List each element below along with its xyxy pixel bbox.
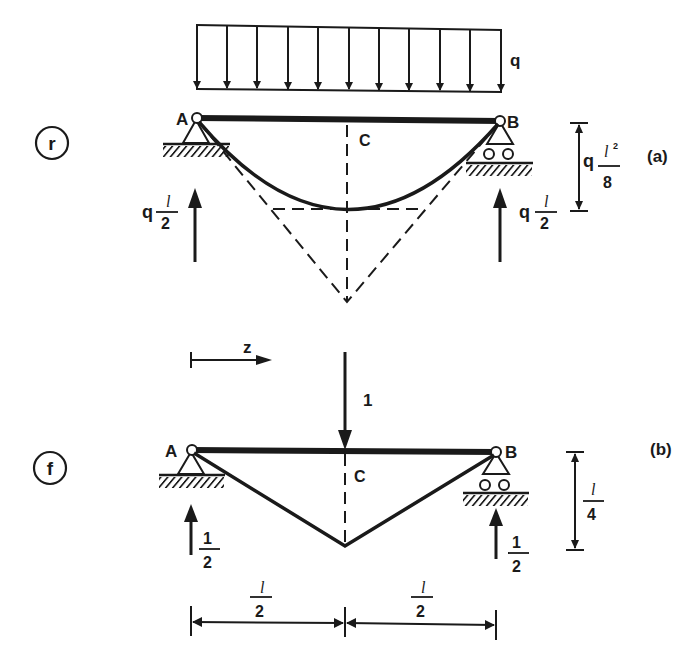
span-dimension — [191, 606, 496, 640]
pin-support-a — [163, 120, 230, 157]
reaction-label-b-b: 1 2 — [508, 534, 529, 575]
svg-text:q: q — [583, 151, 594, 171]
svg-text:1: 1 — [203, 530, 212, 547]
svg-text:2: 2 — [161, 215, 170, 232]
panel-a: r — [36, 25, 668, 302]
reaction-label-a-b: 1 2 — [199, 530, 220, 571]
svg-text:2: 2 — [255, 603, 264, 620]
reaction-arrow-a — [188, 188, 202, 262]
midpoint-c-label-b: C — [354, 468, 366, 485]
reaction-arrow-b — [493, 188, 507, 262]
svg-text:8: 8 — [603, 174, 612, 191]
panel-b-marker: f — [34, 452, 66, 484]
reaction-label-b: q l 2 — [519, 193, 557, 232]
reaction-label-a: q l 2 — [142, 193, 178, 232]
beam-diagram: r — [0, 0, 699, 669]
reaction-arrow-a-b — [184, 504, 198, 555]
svg-text:l: l — [544, 193, 549, 210]
svg-text:2: 2 — [613, 141, 618, 151]
svg-text:f: f — [47, 458, 54, 479]
svg-text:l: l — [421, 579, 426, 596]
distributed-load — [193, 25, 505, 92]
svg-text:2: 2 — [416, 603, 425, 620]
svg-text:2: 2 — [512, 558, 521, 575]
z-label: z — [243, 338, 252, 357]
roller-support-b-b — [463, 453, 529, 506]
panel-a-marker: r — [36, 127, 68, 159]
moment-parabola — [199, 122, 498, 210]
svg-text:q: q — [142, 202, 153, 222]
z-coordinate-arrow — [191, 352, 272, 368]
node-b-label-b: B — [505, 443, 517, 462]
svg-text:2: 2 — [203, 554, 212, 571]
caption-b: (b) — [650, 440, 672, 459]
beam-a — [197, 118, 500, 121]
svg-text:q: q — [519, 202, 530, 222]
point-load-label: 1 — [363, 391, 372, 410]
svg-text:l: l — [604, 143, 609, 160]
svg-text:l: l — [591, 481, 596, 498]
point-load-arrow — [338, 352, 352, 450]
caption-a: (a) — [647, 147, 668, 166]
max-ordinate-label: l 4 — [583, 481, 604, 523]
node-a-label-b: A — [165, 442, 177, 461]
svg-text:4: 4 — [587, 506, 596, 523]
tangent-triangle — [199, 122, 498, 302]
midpoint-c-label: C — [359, 132, 371, 149]
node-a-label: A — [176, 110, 188, 129]
beam-b — [192, 450, 496, 452]
svg-text:r: r — [48, 133, 56, 154]
max-ordinate-dimension — [566, 452, 584, 550]
node-b-label: B — [507, 113, 519, 132]
svg-text:1: 1 — [512, 534, 521, 551]
span-left-label: l 2 — [250, 579, 272, 620]
panel-b: f 1 z A B C — [34, 338, 672, 640]
load-label-q: q — [510, 51, 520, 70]
svg-text:2: 2 — [540, 215, 549, 232]
svg-text:l: l — [166, 193, 171, 210]
max-moment-label: q l 2 8 — [583, 141, 620, 191]
span-right-label: l 2 — [411, 579, 433, 620]
svg-text:l: l — [260, 579, 265, 596]
reaction-arrow-b-b — [489, 508, 503, 559]
